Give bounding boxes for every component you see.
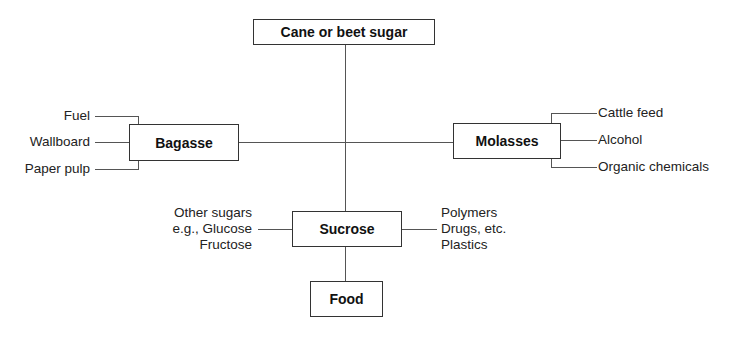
label-other-sugars: Other sugars [174,205,252,221]
label-fructose: Fructose [199,237,252,253]
label-wallboard: Wallboard [30,134,90,150]
connector-top-to-sucrose [345,44,346,211]
label-cattle-feed: Cattle feed [598,105,663,121]
connector-organic-chemicals [551,167,597,168]
connector-organic-drop [551,158,552,167]
node-bagasse: Bagasse [129,124,239,161]
connector-paper-pulp-rise [138,160,139,169]
label-plastics: Plastics [441,237,488,253]
connector-alcohol [560,140,597,141]
label-alcohol: Alcohol [598,132,642,148]
label-organic-chemicals: Organic chemicals [598,159,709,175]
label-paper-pulp: Paper pulp [25,161,90,177]
connector-bagasse-to-molasses [238,142,453,143]
connector-cattle-feed-rise [551,113,552,123]
node-food: Food [310,281,383,317]
label-glucose: e.g., Glucose [172,221,252,237]
label-polymers: Polymers [441,205,497,221]
label-drugs: Drugs, etc. [441,221,506,237]
connector-paper-pulp [95,169,139,170]
connector-polymers [401,229,437,230]
connector-cattle-feed [551,113,597,114]
connector-sucrose-to-food [345,246,346,281]
connector-fuel-drop [138,116,139,124]
connector-wallboard [95,142,129,143]
connector-other-sugars [258,229,292,230]
connector-fuel [95,116,139,117]
node-cane-or-beet-sugar: Cane or beet sugar [253,19,435,45]
node-sucrose: Sucrose [292,211,402,247]
label-fuel: Fuel [64,108,90,124]
node-molasses: Molasses [453,123,561,159]
